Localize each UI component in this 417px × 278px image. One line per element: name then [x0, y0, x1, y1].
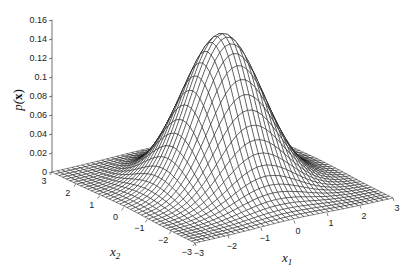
svg-text:−3: −3	[194, 248, 204, 258]
svg-text:−3: −3	[182, 247, 192, 257]
z-axis-label: p(x)	[10, 89, 25, 112]
x2-axis-label: x2	[109, 244, 121, 261]
svg-text:1: 1	[89, 200, 94, 210]
svg-text:0.06: 0.06	[29, 110, 47, 120]
svg-text:−1: −1	[260, 233, 270, 243]
svg-text:3: 3	[41, 176, 46, 186]
svg-text:2: 2	[65, 188, 70, 198]
svg-text:2: 2	[361, 211, 366, 221]
svg-text:−2: −2	[158, 235, 168, 245]
svg-text:0: 0	[295, 226, 300, 236]
svg-text:0.14: 0.14	[29, 34, 47, 44]
svg-text:0.02: 0.02	[29, 148, 47, 158]
svg-text:0.1: 0.1	[34, 72, 47, 82]
svg-text:0.04: 0.04	[29, 129, 47, 139]
svg-text:−2: −2	[227, 241, 237, 251]
svg-text:1: 1	[328, 218, 333, 228]
svg-text:0.08: 0.08	[29, 91, 47, 101]
svg-text:0.12: 0.12	[29, 53, 47, 63]
surface-mesh	[52, 34, 393, 243]
svg-text:0: 0	[113, 212, 118, 222]
svg-text:3: 3	[394, 203, 399, 213]
z-axis: 00.020.040.060.080.10.120.140.16	[29, 15, 52, 177]
x1-axis-label: x1	[281, 250, 292, 267]
svg-text:0.16: 0.16	[29, 15, 47, 25]
gaussian-surface-plot: 00.020.040.060.080.10.120.140.16 −3−2−10…	[0, 0, 417, 278]
svg-text:−1: −1	[134, 223, 144, 233]
